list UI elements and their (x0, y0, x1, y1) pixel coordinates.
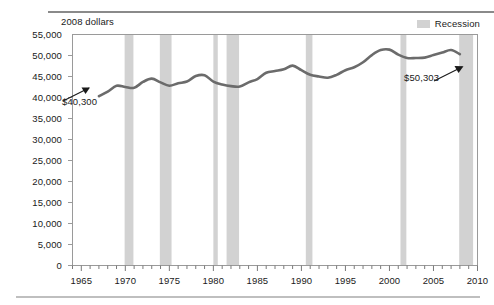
chart-figure: 2008 dollars Recession 05,00010,00015,00… (0, 0, 494, 305)
x-axis-label: 1965 (61, 275, 101, 286)
x-axis-ticks (73, 266, 478, 272)
recession-band (125, 35, 134, 266)
annotation-start-value: $40,300 (62, 96, 97, 107)
y-axis-label: 25,000 (18, 155, 62, 166)
y-axis-label: 10,000 (18, 218, 62, 229)
y-axis-label: 50,000 (18, 50, 62, 61)
y-axis-label: 5,000 (18, 239, 62, 250)
x-axis-label: 2005 (413, 275, 453, 286)
x-axis-label: 1970 (105, 275, 145, 286)
y-axis-label: 15,000 (18, 197, 62, 208)
x-axis-label: 1995 (325, 275, 365, 286)
plot-canvas (0, 0, 494, 305)
x-axis-label: 1985 (237, 275, 277, 286)
annotation-end-value: $50,303 (404, 72, 439, 83)
x-axis-label: 2000 (369, 275, 409, 286)
y-axis-label: 45,000 (18, 71, 62, 82)
recession-band (227, 35, 240, 266)
x-axis-label: 2010 (458, 275, 494, 286)
recession-band (160, 35, 172, 266)
x-axis-label: 1980 (193, 275, 233, 286)
recession-band (213, 35, 217, 266)
recession-band (400, 35, 406, 266)
y-axis-label: 0 (18, 260, 62, 271)
y-axis-label: 30,000 (18, 134, 62, 145)
y-axis-ticks (68, 56, 73, 266)
y-axis-label: 20,000 (18, 176, 62, 187)
x-axis-label: 1975 (149, 275, 189, 286)
recession-band (306, 35, 313, 266)
y-axis-label: 55,000 (18, 29, 62, 40)
y-axis-label: 35,000 (18, 113, 62, 124)
x-axis-label: 1990 (281, 275, 321, 286)
y-axis-label: 40,000 (18, 92, 62, 103)
